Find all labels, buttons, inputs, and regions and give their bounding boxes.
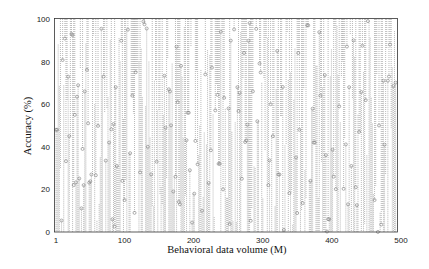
- stem-chart: 1100200300400500 020406080100 Behavioral…: [0, 0, 429, 269]
- x-tick-label: 500: [394, 236, 408, 245]
- x-tick-label: 400: [325, 236, 339, 245]
- y-tick-label: 100: [37, 15, 51, 24]
- x-tick-label: 100: [118, 236, 132, 245]
- stem-series: [55, 19, 398, 233]
- plot-frame: [55, 19, 398, 233]
- x-axis-label: Behavioral data volume (M): [167, 244, 287, 256]
- y-tick-label: 60: [41, 100, 50, 109]
- y-axis: 020406080100: [37, 15, 51, 237]
- y-axis-label: Accuracy (%): [22, 96, 34, 155]
- x-tick-label: 1: [54, 236, 59, 245]
- y-tick-label: 20: [41, 185, 50, 194]
- y-tick-label: 80: [41, 58, 50, 67]
- y-tick-label: 0: [46, 228, 51, 237]
- y-tick-label: 40: [41, 143, 50, 152]
